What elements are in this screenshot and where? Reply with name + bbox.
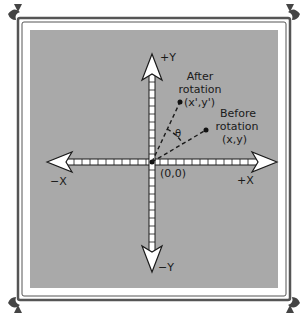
point-before-rotation [204, 128, 209, 133]
angle-theta-label: θ [175, 128, 181, 140]
pos-y-label: +Y [160, 52, 176, 64]
diagram-canvas [0, 0, 308, 317]
origin-label: (0,0) [160, 168, 186, 180]
after-rotation-line1: After [180, 71, 220, 83]
before-rotation-line2: rotation [213, 121, 261, 133]
pos-x-label: +X [237, 175, 254, 187]
neg-y-label: −Y [158, 262, 174, 274]
rotation-diagram: +Y −Y +X −X (0,0) After rotation (x',y')… [0, 0, 308, 317]
after-rotation-line2: rotation [178, 84, 222, 96]
point-after-rotation [178, 100, 183, 105]
neg-x-label: −X [50, 176, 67, 188]
before-rotation-line1: Before [216, 108, 260, 120]
before-rotation-coord: (x,y) [222, 134, 247, 146]
after-rotation-coord: (x',y') [184, 97, 215, 109]
